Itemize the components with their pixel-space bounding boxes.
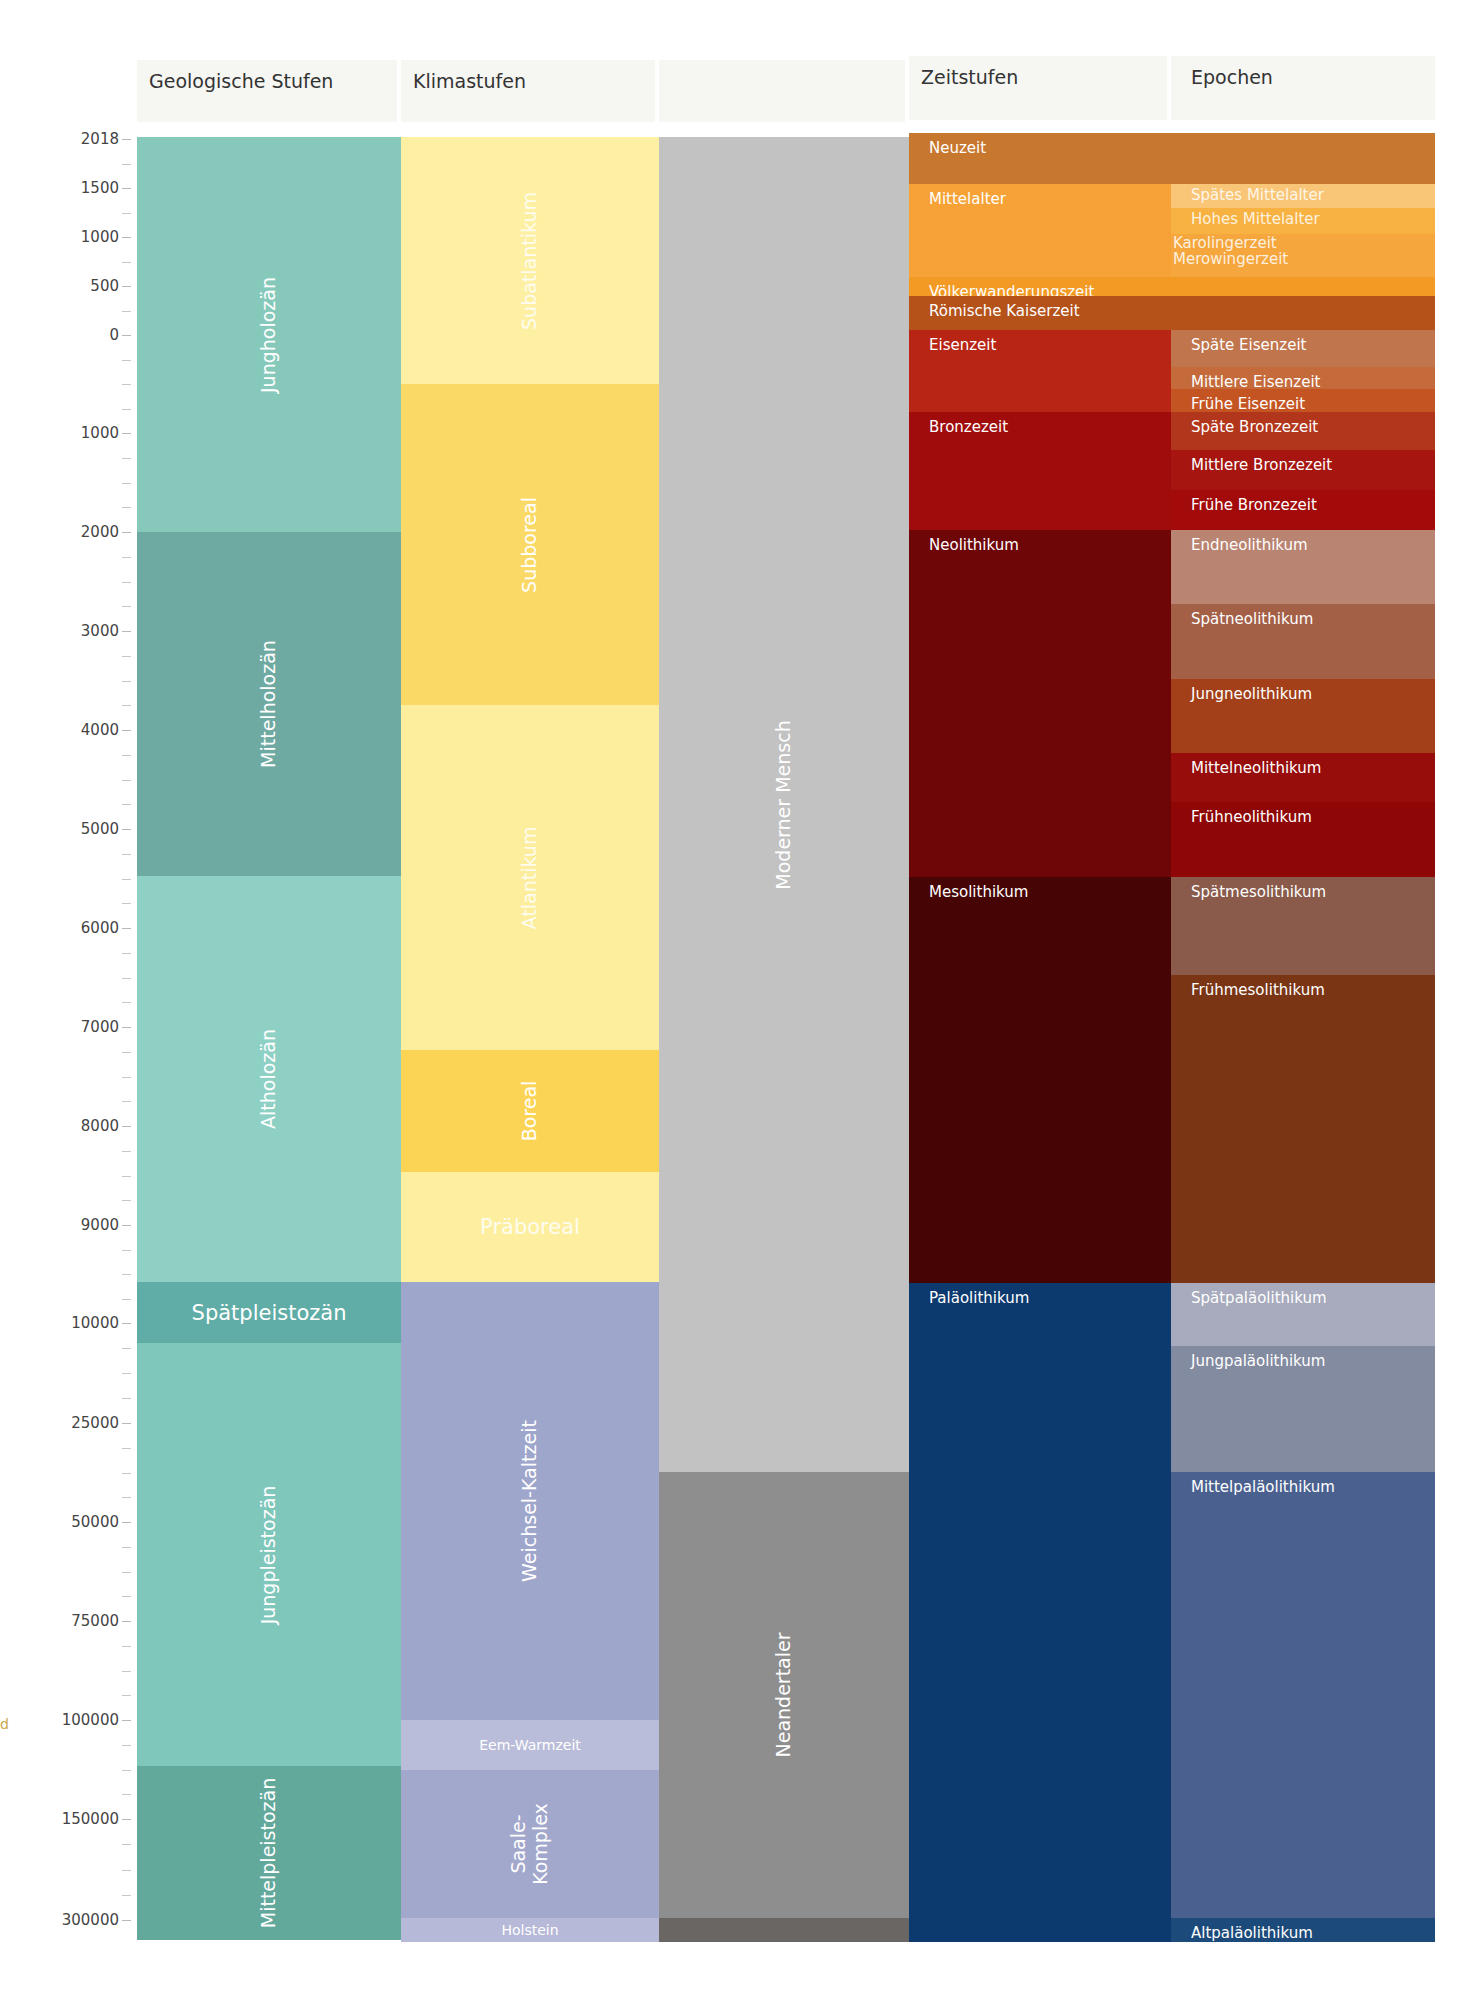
axis-tick	[122, 928, 131, 929]
axis-minor-tick	[122, 360, 131, 361]
axis-minor-tick	[122, 1151, 131, 1152]
axis-minor-tick	[122, 681, 131, 682]
epoche-label: Mittelpaläolithikum	[1191, 1478, 1335, 1496]
axis-minor-tick	[122, 458, 131, 459]
axis-minor-tick	[122, 311, 131, 312]
zeitstufe-label: Römische Kaiserzeit	[929, 302, 1080, 320]
epoche-label: Frühneolithikum	[1191, 808, 1312, 826]
axis-minor-tick	[122, 1596, 131, 1597]
epoche-block: Jungpaläolithikum	[1171, 1346, 1435, 1472]
header-zeitstufen: Zeitstufen	[909, 56, 1167, 120]
geologische-stufe-label: Altholozän	[258, 1029, 280, 1129]
stray-mark: d	[0, 1716, 9, 1732]
epoche-label: Späte Eisenzeit	[1191, 336, 1306, 354]
axis-label: 2000	[81, 523, 119, 541]
axis-tick	[122, 286, 131, 287]
axis-minor-tick	[122, 213, 131, 214]
axis-minor-tick	[122, 1671, 131, 1672]
zeitstufe-label: Völkerwanderungszeit	[929, 283, 1094, 296]
axis-tick	[122, 532, 131, 533]
axis-label: 10000	[71, 1314, 119, 1332]
axis-label: 7000	[81, 1018, 119, 1036]
axis-tick	[122, 188, 131, 189]
axis-label: 300000	[62, 1911, 119, 1929]
epoche-block: Endneolithikum	[1171, 530, 1435, 604]
axis-minor-tick	[122, 705, 131, 706]
epoche-label: Jungneolithikum	[1191, 685, 1312, 703]
axis-tick	[122, 335, 131, 336]
axis-minor-tick	[122, 1547, 131, 1548]
axis-tick	[122, 1819, 131, 1820]
axis-minor-tick	[122, 1448, 131, 1449]
axis-label: 8000	[81, 1117, 119, 1135]
epoche-block: Späte Eisenzeit	[1171, 330, 1435, 367]
axis-tick	[122, 1621, 131, 1622]
klimastufe-block: Subatlantikum	[401, 137, 659, 384]
epoche-label: Frühmesolithikum	[1191, 981, 1325, 999]
axis-label: 9000	[81, 1216, 119, 1234]
epoche-block: Späte Bronzezeit	[1171, 412, 1435, 450]
axis-minor-tick	[122, 1101, 131, 1102]
geologische-stufe-label: Spätpleistozän	[137, 1301, 401, 1325]
axis-minor-tick	[122, 1002, 131, 1003]
epoche-label: Mittlere Eisenzeit	[1191, 373, 1320, 389]
axis-tick	[122, 730, 131, 731]
axis-minor-tick	[122, 1794, 131, 1795]
geologische-stufe-label: Jungpleistozän	[258, 1485, 280, 1624]
axis-minor-tick	[122, 483, 131, 484]
axis-minor-tick	[122, 755, 131, 756]
axis-tick	[122, 1423, 131, 1424]
axis-minor-tick	[122, 780, 131, 781]
axis-label: 3000	[81, 622, 119, 640]
axis-minor-tick	[122, 557, 131, 558]
axis-tick	[122, 1225, 131, 1226]
epoche-block: Frühe Eisenzeit	[1171, 389, 1435, 412]
epoche-block: Mittlere Eisenzeit	[1171, 367, 1435, 389]
axis-label: 75000	[71, 1612, 119, 1630]
axis-minor-tick	[122, 1250, 131, 1251]
axis-minor-tick	[122, 978, 131, 979]
axis-label: 50000	[71, 1513, 119, 1531]
zeitstufe-label: Neolithikum	[929, 536, 1019, 554]
menschenart-label: Neandertaler	[773, 1632, 795, 1757]
klimastufe-label: Subatlantikum	[519, 192, 541, 330]
zeitstufe-block: Neuzeit	[909, 133, 1435, 184]
epoche-block: Hohes Mittelalter	[1171, 208, 1435, 234]
axis-minor-tick	[122, 1870, 131, 1871]
axis-minor-tick	[122, 409, 131, 410]
axis-label: 25000	[71, 1414, 119, 1432]
epoche-block: Mittelneolithikum	[1171, 753, 1435, 802]
epoche-label: Spätes Mittelalter	[1191, 186, 1324, 204]
axis-minor-tick	[122, 953, 131, 954]
epoche-block: Mittlere Bronzezeit	[1171, 450, 1435, 490]
axis-minor-tick	[122, 1348, 131, 1349]
axis-tick	[122, 1126, 131, 1127]
axis-tick	[122, 1522, 131, 1523]
header-menschen	[659, 60, 905, 122]
axis-minor-tick	[122, 1052, 131, 1053]
menschenart-block	[659, 1918, 909, 1942]
zeitstufe-label: Paläolithikum	[929, 1289, 1029, 1307]
klimastufe-label: Saale- Komplex	[508, 1803, 552, 1885]
axis-label: 150000	[62, 1810, 119, 1828]
axis-minor-tick	[122, 1373, 131, 1374]
epoche-label: Hohes Mittelalter	[1191, 210, 1320, 228]
epoche-block: Karolingerzeit Merowingerzeit	[1171, 234, 1435, 277]
axis-minor-tick	[122, 164, 131, 165]
klimastufe-block: Boreal	[401, 1050, 659, 1172]
geologische-stufe-label: Mittelholozän	[258, 640, 280, 768]
axis-minor-tick	[122, 1695, 131, 1696]
epoche-label: Mittelneolithikum	[1191, 759, 1321, 777]
menschenart-label: Moderner Mensch	[773, 720, 795, 889]
axis-label: 1000	[81, 228, 119, 246]
epoche-label: Mittlere Bronzezeit	[1191, 456, 1332, 474]
klimastufe-block: Saale- Komplex	[401, 1770, 659, 1918]
epoche-block: Mittelpaläolithikum	[1171, 1472, 1435, 1918]
axis-label: 500	[90, 277, 119, 295]
epoche-label: Späte Bronzezeit	[1191, 418, 1318, 436]
epoche-block	[1171, 296, 1435, 330]
klimastufe-label: Atlantikum	[519, 826, 541, 929]
epoche-block: Spätneolithikum	[1171, 604, 1435, 679]
axis-label: 1000	[81, 424, 119, 442]
axis-minor-tick	[122, 1200, 131, 1201]
